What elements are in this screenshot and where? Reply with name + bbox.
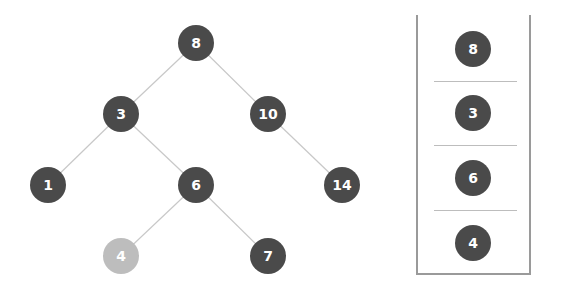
stack-divider (434, 145, 517, 146)
tree-node-14: 14 (324, 167, 360, 203)
tree-node-3: 3 (103, 96, 139, 132)
stack-item-3: 3 (455, 95, 491, 131)
stack-item-6: 6 (455, 160, 491, 196)
tree-node-7: 7 (250, 238, 286, 274)
stack-divider (434, 81, 517, 82)
tree-node-4-highlighted: 4 (103, 238, 139, 274)
stack-container: 8 3 6 4 (416, 15, 531, 275)
diagram: 8 3 10 1 6 14 4 7 8 3 6 4 (0, 0, 562, 296)
tree-node-8: 8 (178, 25, 214, 61)
stack-divider (434, 210, 517, 211)
tree-node-10: 10 (250, 96, 286, 132)
tree-node-6: 6 (178, 167, 214, 203)
tree-node-1: 1 (30, 167, 66, 203)
stack-item-4: 4 (455, 225, 491, 261)
stack-item-8: 8 (455, 31, 491, 67)
